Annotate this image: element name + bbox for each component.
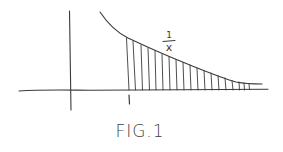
y-axis: [70, 11, 72, 110]
figure-caption: FIG.1: [98, 121, 182, 141]
curve-label-numerator: 1: [166, 30, 172, 40]
curve-label-one-over-x: 1 x: [163, 30, 175, 54]
reciprocal-curve: [100, 12, 262, 84]
curve-label-denominator: x: [166, 41, 173, 54]
x-tick-1: [129, 95, 130, 104]
x-axis: [19, 89, 268, 91]
figure-1-diagram: 1 x FIG.1: [0, 0, 283, 152]
